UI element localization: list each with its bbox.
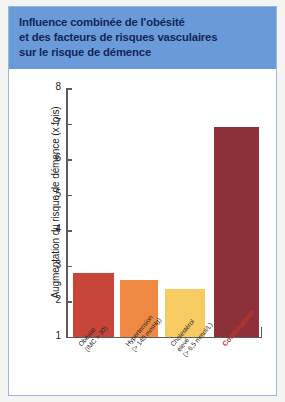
- y-tick-label: 1: [39, 330, 61, 341]
- chart-plot-area: Augmentation du risque de démence (x foi…: [9, 69, 276, 396]
- card-frame: Influence combinée de l'obésité et des f…: [8, 6, 277, 396]
- header-band: Influence combinée de l'obésité et des f…: [9, 7, 276, 69]
- y-tick-mark: [66, 230, 72, 232]
- x-axis-end-tick: [261, 327, 263, 338]
- y-tick-mark: [66, 195, 72, 197]
- infographic-card: Influence combinée de l'obésité et des f…: [0, 0, 285, 402]
- y-tick-label: 4: [39, 223, 61, 234]
- y-tick-mark: [66, 301, 72, 303]
- y-tick-label: 2: [39, 294, 61, 305]
- y-tick-label: 6: [39, 152, 61, 163]
- y-tick-label: 3: [39, 259, 61, 270]
- y-tick-mark: [66, 266, 72, 268]
- y-tick-label: 5: [39, 188, 61, 199]
- y-tick-mark: [66, 124, 72, 126]
- y-tick-mark: [66, 88, 72, 90]
- bar-4: [214, 127, 259, 336]
- y-tick-label: 7: [39, 117, 61, 128]
- y-tick-label: 8: [39, 81, 61, 92]
- page-title: Influence combinée de l'obésité et des f…: [19, 15, 266, 61]
- y-tick-mark: [66, 159, 72, 161]
- y-tick-mark: [66, 337, 72, 339]
